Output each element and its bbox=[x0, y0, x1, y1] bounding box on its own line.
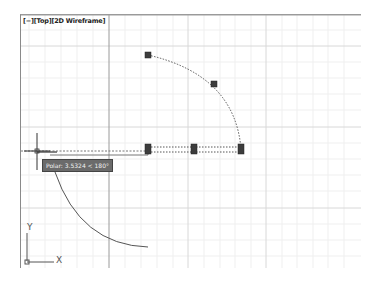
arc-mid-grip[interactable] bbox=[211, 81, 217, 87]
line-start-grip[interactable] bbox=[145, 144, 151, 154]
arc-start-grip[interactable] bbox=[145, 52, 151, 58]
polar-tracking-tooltip: Polar: 3.5324 < 180° bbox=[42, 159, 113, 172]
grid bbox=[21, 15, 361, 268]
ucs-x-label: X bbox=[56, 255, 62, 265]
viewport-controls-label[interactable]: [−][Top][2D Wireframe] bbox=[23, 17, 105, 25]
arc-preview bbox=[55, 172, 148, 247]
dashed-arc bbox=[148, 55, 241, 149]
selected-geometry[interactable] bbox=[148, 55, 241, 152]
rubber-band bbox=[21, 151, 148, 155]
drawing-canvas[interactable] bbox=[0, 0, 381, 282]
line-mid-grip[interactable] bbox=[191, 144, 197, 154]
line-end-grip[interactable] bbox=[238, 144, 244, 154]
ucs-y-label: Y bbox=[27, 222, 33, 232]
